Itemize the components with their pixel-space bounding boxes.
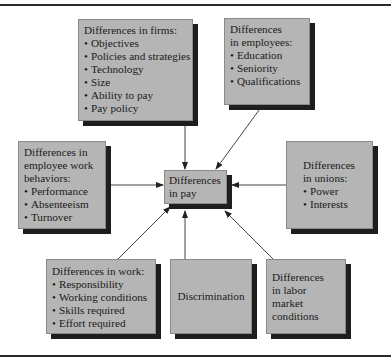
box-behaviors-list: Performance Absenteeism Turnover (24, 185, 100, 224)
list-item: Objectives (84, 37, 187, 50)
box-labor-market-title: Differences in labor market conditions (272, 271, 340, 323)
arrow-work (118, 207, 170, 259)
box-discrimination-title: Discrimination (177, 290, 244, 303)
box-unions: Differences in unions: Power Interests (286, 141, 373, 229)
box-work-title: Differences in work: (52, 265, 150, 278)
box-center-pay: Differences in pay (164, 170, 227, 204)
box-employees-list: Education Seniority Qualifications (230, 49, 304, 88)
box-work: Differences in work: Responsibility Work… (46, 259, 156, 334)
list-item: Technology (84, 63, 187, 76)
center-label: Differences in pay (169, 174, 222, 200)
box-work-list: Responsibility Working conditions Skills… (52, 278, 150, 330)
list-item: Effort required (52, 317, 150, 330)
list-item: Seniority (230, 62, 304, 75)
box-firms: Differences in firms: Objectives Policie… (78, 19, 193, 121)
box-discrimination: Discrimination (170, 259, 252, 334)
list-item: Ability to pay (84, 89, 187, 102)
list-item: Power (303, 185, 367, 198)
list-item: Turnover (24, 211, 100, 224)
list-item: Education (230, 49, 304, 62)
box-labor-market: Differences in labor market conditions (266, 259, 346, 334)
box-firms-title: Differences in firms: (84, 24, 187, 37)
list-item: Qualifications (230, 75, 304, 88)
box-behaviors: Differences in employee work behaviors: … (18, 141, 106, 229)
list-item: Skills required (52, 304, 150, 317)
list-item: Responsibility (52, 278, 150, 291)
list-item: Pay policy (84, 102, 187, 115)
box-employees: Differences in employees: Education Seni… (224, 18, 310, 105)
list-item: Interests (303, 198, 367, 211)
box-unions-list: Power Interests (303, 185, 367, 211)
list-item: Performance (24, 185, 100, 198)
list-item: Size (84, 76, 187, 89)
box-behaviors-title: Differences in employee work behaviors: (24, 146, 100, 185)
arrow-employees (216, 106, 262, 169)
list-item: Policies and strategies (84, 50, 187, 63)
list-item: Working conditions (52, 291, 150, 304)
box-employees-title: Differences in employees: (230, 23, 304, 49)
box-firms-list: Objectives Policies and strategies Techn… (84, 37, 187, 115)
list-item: Absenteeism (24, 198, 100, 211)
arrow-labor-market (225, 211, 273, 259)
box-unions-title: Differences in unions: (303, 159, 367, 185)
